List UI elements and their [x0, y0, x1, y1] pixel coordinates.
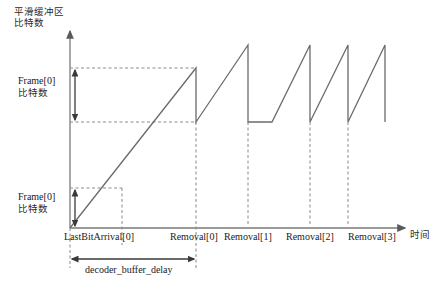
xtick-removal-2: Removal[2] — [286, 231, 334, 243]
diagram-canvas — [0, 0, 440, 291]
xtick-removal-1: Removal[1] — [224, 231, 272, 243]
buffer-fullness-curve — [70, 45, 385, 228]
frame-upper-annotation: Frame[0] 比特数 — [18, 75, 55, 98]
x-axis-label: 时间 — [410, 229, 430, 240]
y-axis-label: 平滑缓冲区 比特数 — [14, 6, 64, 28]
decoder-buffer-delay-label: decoder_buffer_delay — [85, 264, 173, 276]
frame-lower-annotation: Frame[0] 比特数 — [18, 191, 55, 214]
xtick-lastbitarrival-0: LastBitArrival[0] — [64, 231, 134, 243]
xtick-removal-0: Removal[0] — [170, 231, 218, 243]
xtick-removal-3: Removal[3] — [348, 231, 396, 243]
frame-upper-line2: 比特数 — [18, 87, 55, 98]
frame-lower-line2: 比特数 — [18, 203, 55, 214]
figure-container: 平滑缓冲区 比特数 Frame[0] 比特数 Frame[0] 比特数 Last… — [0, 0, 440, 291]
y-axis-label-line2: 比特数 — [14, 17, 64, 28]
y-axis-label-line1: 平滑缓冲区 — [14, 6, 64, 17]
frame-upper-line1: Frame[0] — [18, 75, 55, 87]
frame-lower-line1: Frame[0] — [18, 191, 55, 203]
